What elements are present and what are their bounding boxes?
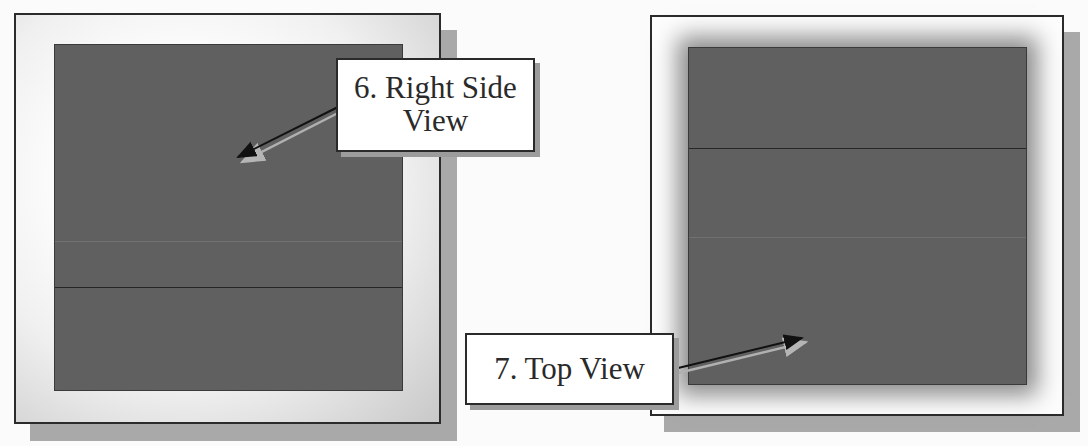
faint-edge-line	[55, 241, 402, 242]
callout-7-line1: 7. Top View	[494, 353, 645, 386]
callout-6-line2: View	[403, 105, 468, 138]
top-view-viewport[interactable]	[688, 47, 1027, 385]
callout-6-line1: 6. Right Side	[354, 72, 517, 105]
callout-right-side-view: 6. Right Side View	[336, 58, 535, 152]
model-edge-line	[689, 148, 1026, 149]
callout-top-view: 7. Top View	[465, 333, 674, 405]
faint-edge-line	[689, 237, 1026, 238]
model-edge-line	[55, 287, 402, 288]
